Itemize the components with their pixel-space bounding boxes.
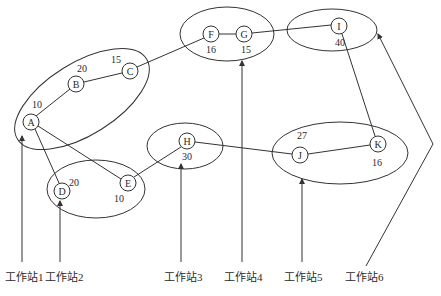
edge-I-K: [342, 34, 375, 136]
node-F-weight: 16: [206, 44, 216, 55]
node-K-weight: 16: [372, 157, 382, 168]
edge-E-H: [134, 147, 181, 177]
node-K-label: K: [374, 139, 382, 150]
node-D-weight: 20: [69, 177, 79, 188]
node-C-weight: 15: [111, 54, 121, 65]
edge-G-I: [252, 25, 331, 33]
station3-label: 工作站3: [164, 268, 203, 284]
edge-J-K: [308, 145, 370, 154]
node-J-weight: 27: [297, 130, 307, 141]
station5-label: 工作站5: [284, 268, 323, 284]
node-E-weight: 10: [114, 193, 124, 204]
edge-C-F: [137, 38, 204, 67]
node-B-label: B: [73, 79, 80, 90]
node-A-weight: 10: [32, 99, 42, 110]
station6-label: 工作站6: [345, 268, 384, 284]
diagram-svg: A B C D E F G H I J K 10 20 15 20 10 16 …: [0, 0, 441, 296]
edge-H-J: [195, 142, 292, 154]
workstation-partition-diagram: A B C D E F G H I J K 10 20 15 20 10 16 …: [0, 0, 441, 296]
node-J-label: J: [298, 150, 302, 161]
station1-label: 工作站1: [5, 268, 44, 284]
edge-B-C: [84, 73, 122, 82]
node-G-label: G: [240, 29, 247, 40]
station4-label: 工作站4: [224, 268, 263, 284]
node-E-label: E: [125, 178, 131, 189]
node-H-weight: 30: [182, 151, 192, 162]
station2-label: 工作站2: [45, 268, 84, 284]
edge-A-E: [38, 126, 121, 179]
node-C-label: C: [127, 66, 134, 77]
node-B-weight: 20: [77, 63, 87, 74]
node-D-label: D: [58, 186, 65, 197]
node-G-weight: 15: [241, 44, 251, 55]
node-I-label: I: [337, 21, 340, 32]
group-ellipse-station1: [0, 28, 166, 170]
node-I-weight: 40: [335, 37, 345, 48]
node-A-label: A: [27, 117, 35, 128]
node-H-label: H: [183, 136, 190, 147]
node-F-label: F: [208, 29, 214, 40]
